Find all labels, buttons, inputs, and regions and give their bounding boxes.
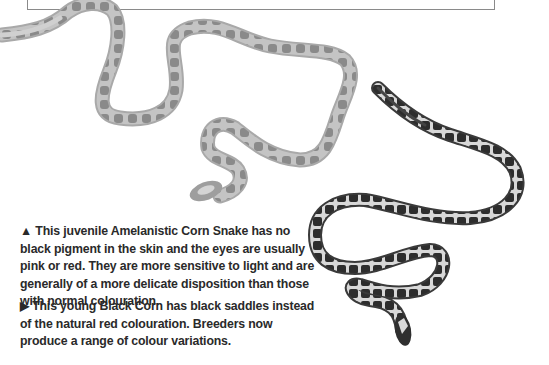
caption-text: This juvenile Amelanistic Corn Snake has… (20, 224, 314, 308)
amelanistic-corn-snake-image (2, 3, 351, 205)
caption-text: This young Black Corn has black saddles … (20, 299, 314, 348)
right-triangle-icon: ▶ (20, 299, 29, 313)
caption-black-corn-snake: ▶ This young Black Corn has black saddle… (20, 298, 320, 351)
black-corn-snake-image (315, 88, 518, 347)
up-triangle-icon: ▲ (20, 224, 32, 238)
